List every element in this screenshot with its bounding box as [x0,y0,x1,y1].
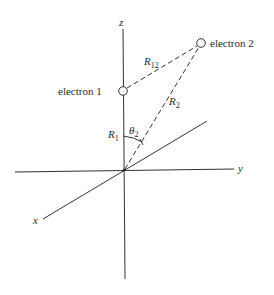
r1-label: R1 [107,128,119,143]
theta2-arc [123,136,142,142]
r12-label: R12 [143,55,159,70]
y-axis-label: y [237,162,243,174]
r12-dashed-line [127,46,197,88]
origin-point [123,169,126,172]
r2-label: R2 [168,95,180,110]
electron-2-marker [197,39,206,48]
z-axis-label: z [118,16,124,28]
z-axis [123,29,125,279]
electron-1-marker [119,87,128,96]
electron-2-label: electron 2 [210,37,254,49]
r2-dashed-line [125,47,199,169]
x-axis-label: x [32,214,38,226]
electron-coordinate-diagram: z y x electron 1 electron 2 R12 R2 R1 θ2 [0,0,274,295]
electron-1-label: electron 1 [58,85,102,97]
